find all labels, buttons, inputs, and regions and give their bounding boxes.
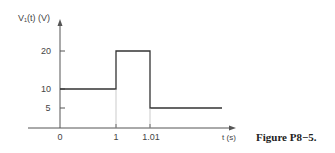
waveform-line [60, 51, 222, 108]
y-tick-10: 10 [41, 84, 51, 94]
y-axis-arrow-icon [58, 19, 63, 26]
figure-caption: Figure P8−5. [256, 131, 317, 143]
x-axis-label: t (s) [222, 133, 236, 142]
x-tick-1-01: 1.01 [142, 132, 160, 142]
y-axis-label: V₁(t) (V) [18, 13, 50, 23]
y-tick-5: 5 [45, 103, 50, 113]
x-tick-1: 1 [113, 132, 118, 142]
step-waveform-chart: V₁(t) (V) 20 10 5 0 1 1.01 t (s) Figure … [0, 0, 335, 153]
x-tick-0: 0 [57, 132, 62, 142]
x-axis-arrow-icon [229, 126, 236, 131]
y-tick-20: 20 [41, 46, 51, 56]
